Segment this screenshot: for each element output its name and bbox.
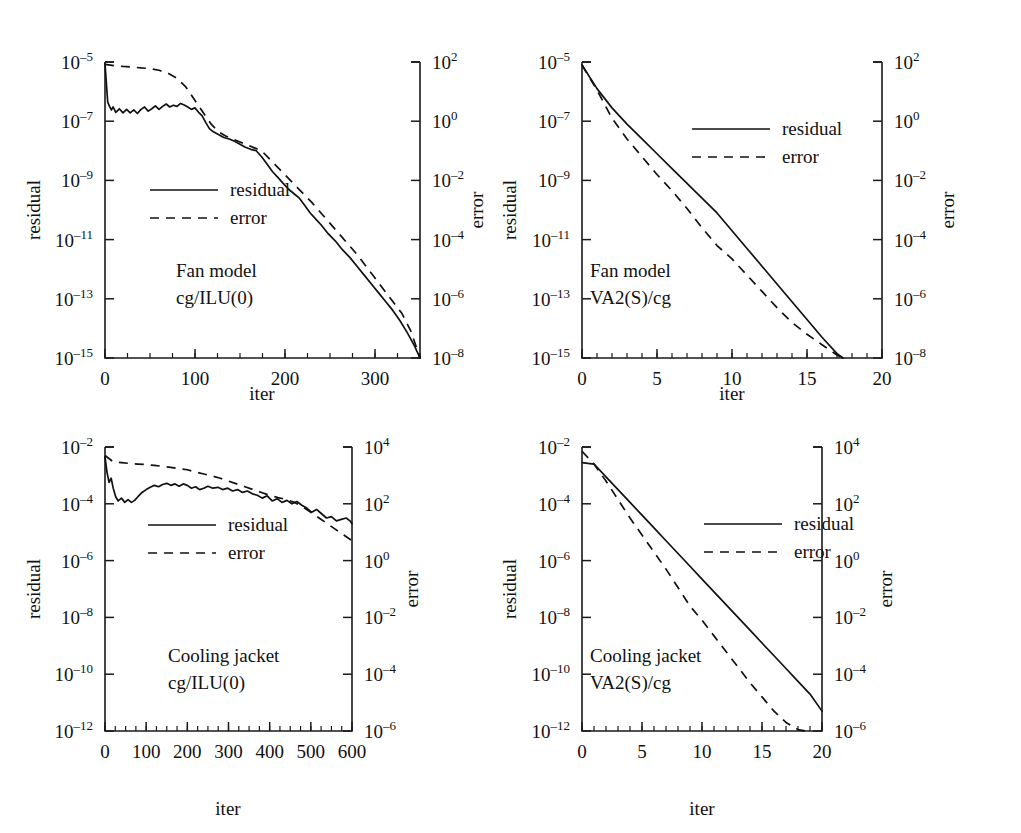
y-ticklabel-right: 10–4 — [894, 227, 927, 251]
x-ticklabel: 5 — [637, 741, 647, 762]
annotation-line-2: cg/ILU(0) — [168, 672, 245, 694]
y-ticklabel-right: 10–8 — [432, 345, 464, 369]
panel-bottom-right: 10–1210–1010–810–610–410–210–610–410–210… — [462, 400, 1021, 833]
annotation-line-2: VA2(S)/cg — [590, 672, 671, 694]
x-ticklabel: 100 — [132, 741, 161, 762]
convergence-figure: 10–1510–1310–1110–910–710–510–810–610–41… — [0, 0, 1021, 833]
x-axis-title: iter — [215, 798, 241, 819]
y-ticklabel-left: 10–2 — [538, 434, 570, 458]
legend-label-error: error — [782, 146, 820, 167]
y-ticklabel-left: 10–6 — [61, 548, 94, 572]
y-ticklabel-right: 102 — [834, 491, 860, 515]
x-ticklabel: 100 — [181, 368, 210, 389]
y-ticklabel-left: 10–13 — [532, 286, 571, 310]
x-axis: 0100200300400500600 — [100, 722, 366, 762]
axes-frame — [582, 62, 882, 358]
annotation-line-1: Fan model — [176, 260, 257, 281]
plot-top-left: 10–1510–1310–1110–910–710–510–810–610–41… — [23, 49, 487, 404]
y-ticklabel-right: 104 — [834, 434, 860, 458]
plot-bottom-right: 10–1210–1010–810–610–410–210–610–410–210… — [499, 434, 896, 819]
x-ticklabel: 5 — [652, 368, 662, 389]
y-ticklabel-left: 10–4 — [538, 491, 571, 515]
y-ticklabel-right: 10–8 — [894, 345, 926, 369]
y-ticklabel-right: 102 — [364, 491, 390, 515]
y-ticklabel-left: 10–5 — [538, 49, 570, 73]
legend: residualerror — [150, 179, 290, 228]
y-axis-title-right: error — [937, 191, 958, 229]
y-ticklabel-left: 10–7 — [538, 108, 571, 132]
y-axis-title-left: residual — [499, 559, 520, 619]
y-ticklabel-right: 10–6 — [894, 286, 927, 310]
x-ticklabel: 0 — [100, 368, 110, 389]
panel-annotation: Cooling jacketVA2(S)/cg — [590, 645, 702, 694]
y-ticklabel-right: 10–2 — [894, 167, 926, 191]
plot-bottom-left: 10–1210–1010–810–610–410–210–610–410–210… — [23, 434, 422, 819]
y-ticklabel-right: 100 — [894, 108, 920, 132]
y-axis-title-right: error — [401, 570, 422, 608]
annotation-line-1: Cooling jacket — [590, 645, 702, 666]
series-line-residual — [582, 65, 843, 358]
y-axis-right: 10–610–410–2100102104 — [813, 434, 867, 742]
y-ticklabel-right: 10–2 — [364, 604, 396, 628]
y-axis-title-left: residual — [499, 180, 520, 240]
legend-label-residual: residual — [782, 118, 842, 139]
x-ticklabel: 400 — [255, 741, 284, 762]
y-ticklabel-right: 10–6 — [432, 286, 465, 310]
y-ticklabel-left: 10–12 — [55, 718, 94, 742]
x-ticklabel: 10 — [693, 741, 712, 762]
y-ticklabel-left: 10–11 — [532, 227, 570, 251]
legend-label-error: error — [794, 541, 832, 562]
y-ticklabel-right: 102 — [894, 49, 920, 73]
legend: residualerror — [692, 118, 842, 167]
x-ticklabel: 15 — [753, 741, 772, 762]
y-ticklabel-left: 10–8 — [61, 604, 93, 628]
legend-label-residual: residual — [794, 513, 854, 534]
y-ticklabel-left: 10–6 — [538, 548, 571, 572]
x-ticklabel: 300 — [214, 741, 243, 762]
legend-label-residual: residual — [230, 179, 290, 200]
panel-top-left: 10–1510–1310–1110–910–710–510–810–610–41… — [0, 0, 510, 417]
x-ticklabel: 20 — [873, 368, 892, 389]
panel-annotation: Cooling jacketcg/ILU(0) — [168, 645, 280, 694]
y-ticklabel-left: 10–13 — [55, 286, 94, 310]
x-ticklabel: 0 — [577, 368, 587, 389]
y-ticklabel-left: 10–9 — [61, 167, 93, 191]
y-axis-title-right: error — [875, 570, 896, 608]
x-ticklabel: 15 — [798, 368, 817, 389]
y-ticklabel-right: 10–4 — [432, 227, 465, 251]
y-ticklabel-left: 10–15 — [55, 345, 94, 369]
y-ticklabel-right: 10–6 — [364, 718, 397, 742]
y-axis-title-left: residual — [23, 559, 44, 619]
x-ticklabel: 200 — [271, 368, 300, 389]
plot-top-right: 10–1510–1310–1110–910–710–510–810–610–41… — [499, 49, 958, 404]
y-axis-right: 10–610–410–2100102104 — [343, 434, 397, 742]
y-ticklabel-left: 10–11 — [55, 227, 93, 251]
x-ticklabel: 300 — [361, 368, 390, 389]
x-ticklabel: 500 — [297, 741, 326, 762]
y-ticklabel-left: 10–5 — [61, 49, 93, 73]
panel-annotation: Fan modelVA2(S)/cg — [590, 260, 671, 309]
panel-top-right: 10–1510–1310–1110–910–710–510–810–610–41… — [462, 0, 1021, 417]
x-ticklabel: 600 — [338, 741, 367, 762]
y-ticklabel-right: 102 — [432, 49, 458, 73]
x-axis: 05101520 — [577, 722, 831, 762]
panel-bottom-left: 10–1210–1010–810–610–410–210–610–410–210… — [0, 400, 510, 833]
y-ticklabel-left: 10–4 — [61, 491, 94, 515]
x-axis-title: iter — [689, 798, 715, 819]
x-ticklabel: 20 — [813, 741, 832, 762]
y-ticklabel-right: 100 — [834, 548, 860, 572]
y-ticklabel-left: 10–12 — [532, 718, 571, 742]
panel-annotation: Fan modelcg/ILU(0) — [176, 260, 257, 309]
x-ticklabel: 200 — [173, 741, 202, 762]
y-ticklabel-right: 10–4 — [364, 661, 397, 685]
y-ticklabel-left: 10–2 — [61, 434, 93, 458]
y-ticklabel-left: 10–15 — [532, 345, 571, 369]
y-ticklabel-left: 10–9 — [538, 167, 570, 191]
y-ticklabel-right: 10–2 — [432, 167, 464, 191]
x-ticklabel: 0 — [100, 741, 110, 762]
y-ticklabel-right: 10–6 — [834, 718, 867, 742]
legend-label-residual: residual — [228, 514, 288, 535]
y-ticklabel-right: 10–2 — [834, 604, 866, 628]
y-ticklabel-right: 100 — [432, 108, 458, 132]
series-line-error — [582, 65, 843, 358]
